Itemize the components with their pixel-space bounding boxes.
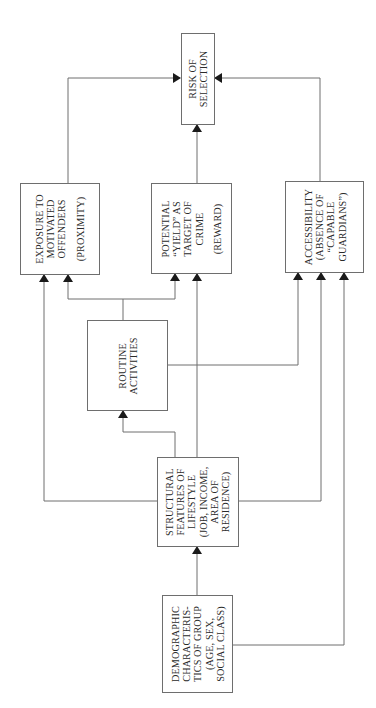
edge-routine-to-accessibility: [167, 273, 298, 365]
node-label: STRUCTURAL FEATURES OF LIFESTYLE (JOB, I…: [164, 467, 231, 538]
node-label: ACCESSIBILITY (ABSENCE OF “CAPABLE GUARD…: [302, 189, 347, 266]
edge-exposure-to-risk: [68, 78, 180, 183]
node-accessibility: ACCESSIBILITY (ABSENCE OF “CAPABLE GUARD…: [285, 181, 364, 273]
node-label: RISK OF SELECTION: [187, 51, 209, 107]
edge-routine-to-exposure: [68, 275, 123, 299]
node-potential-yield: POTENTIAL “YIELD” AS TARGET OF CRIME (RE…: [151, 183, 232, 274]
node-label: POTENTIAL “YIELD” AS TARGET OF CRIME (RE…: [160, 200, 223, 257]
edge-accessibility-to-risk: [215, 78, 320, 181]
edge-demographic-to-accessibility: [232, 273, 344, 645]
node-risk-of-selection: RISK OF SELECTION: [181, 33, 215, 125]
node-label: EXPOSURE TO MOTIVATED OFFENDERS (PROXIMI…: [34, 194, 86, 264]
node-demographic-characteristics: DEMOGRAPHIC CHARACTERIS- TICS OF GROUP (…: [162, 595, 233, 693]
routine-activities-diagram: RISK OF SELECTION EXPOSURE TO MOTIVATED …: [0, 0, 376, 708]
edge-routine-to-yield: [123, 274, 175, 299]
node-label: DEMOGRAPHIC CHARACTERIS- TICS OF GROUP (…: [169, 606, 225, 682]
edge-structural-to-routine: [123, 411, 175, 457]
node-exposure-to-motivated-offenders: EXPOSURE TO MOTIVATED OFFENDERS (PROXIMI…: [20, 183, 100, 275]
edge-structural-to-accessibility: [238, 273, 321, 501]
node-label: ROUTINE ACTIVITIES: [116, 337, 138, 394]
node-routine-activities: ROUTINE ACTIVITIES: [87, 320, 168, 411]
node-structural-features-of-lifestyle: STRUCTURAL FEATURES OF LIFESTYLE (JOB, I…: [157, 457, 239, 547]
